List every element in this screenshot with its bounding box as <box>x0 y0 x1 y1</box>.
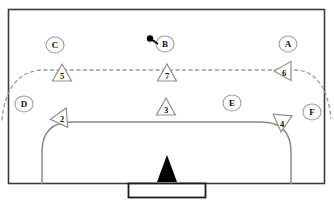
zone-marker-f[interactable]: F <box>303 104 321 120</box>
player-label: 6 <box>282 68 286 78</box>
zone-marker-e[interactable]: E <box>223 95 241 111</box>
zone-label: E <box>229 98 235 108</box>
player-label: 5 <box>60 71 64 81</box>
zone-marker-c[interactable]: C <box>46 37 64 53</box>
zone-label: D <box>21 99 28 109</box>
zone-label: A <box>285 39 292 49</box>
player-label: 3 <box>164 105 168 115</box>
zone-marker-b[interactable]: B <box>156 36 174 52</box>
field-diagram: 5 7 6 2 3 4 C B <box>0 0 334 200</box>
zone-marker-d[interactable]: D <box>15 96 33 112</box>
zone-label: F <box>309 107 315 117</box>
player-label: 2 <box>60 114 64 124</box>
goal-box-rect <box>129 184 206 198</box>
zone-label: C <box>52 40 59 50</box>
zone-marker-a[interactable]: A <box>279 36 297 52</box>
field-diagram-canvas: 5 7 6 2 3 4 C B <box>0 0 334 200</box>
zone-label: B <box>162 39 168 49</box>
ball-icon <box>147 35 153 41</box>
